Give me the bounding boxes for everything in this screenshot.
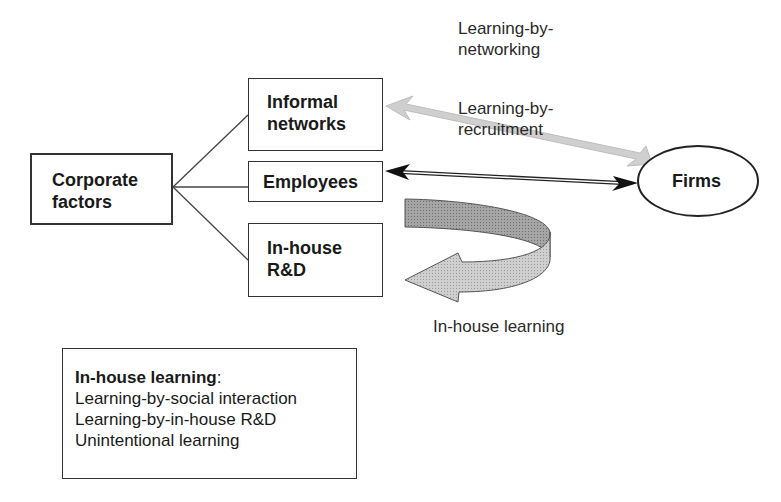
- inhouse-rd-line1: In-house: [267, 237, 382, 259]
- recruitment-label: Learning-by- recruitment: [458, 98, 553, 140]
- legend-box: In-house learning: Learning-by-social in…: [62, 348, 357, 479]
- legend-item: Learning-by-social interaction: [75, 388, 356, 409]
- inhouse-rd-node: In-house R&D: [248, 223, 383, 297]
- inhouse-learning-label: In-house learning: [433, 316, 564, 337]
- informal-line1: Informal: [267, 91, 382, 113]
- informal-line2: networks: [267, 113, 382, 135]
- inhouse-learning-arrow: [405, 199, 550, 302]
- networking-line1: Learning-by-: [458, 18, 553, 39]
- legend-title-colon: :: [217, 368, 222, 387]
- legend-item: Learning-by-in-house R&D: [75, 409, 356, 430]
- legend-title: In-house learning:: [75, 367, 356, 388]
- recruitment-arrow: [385, 164, 638, 191]
- informal-networks-node: Informal networks: [248, 78, 383, 151]
- legend-item: Unintentional learning: [75, 430, 356, 451]
- corporate-line1: Corporate: [52, 169, 171, 191]
- corporate-factors-node: Corporate factors: [30, 153, 173, 225]
- employees-label: Employees: [263, 171, 382, 193]
- networking-line2: networking: [458, 39, 553, 60]
- inhouse-rd-line2: R&D: [267, 259, 382, 281]
- recruitment-line1: Learning-by-: [458, 98, 553, 119]
- tree-lines: [173, 115, 248, 260]
- legend-title-text: In-house learning: [75, 368, 217, 387]
- networking-label: Learning-by- networking: [458, 18, 553, 60]
- employees-node: Employees: [248, 161, 383, 202]
- firms-label: Firms: [672, 170, 721, 192]
- recruitment-line2: recruitment: [458, 119, 553, 140]
- corporate-line2: factors: [52, 191, 171, 213]
